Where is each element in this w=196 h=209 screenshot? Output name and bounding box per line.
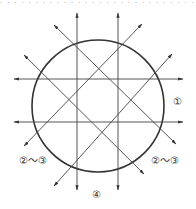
label-bottom-4: ④ bbox=[92, 189, 101, 200]
circle-outline bbox=[32, 40, 164, 172]
label-bottom-left-2-3: ②～③ bbox=[19, 152, 47, 167]
label-bottom-right-2-3: ②～③ bbox=[151, 152, 179, 167]
force-directions-diagram bbox=[0, 0, 196, 209]
label-right-1: ① bbox=[173, 96, 182, 107]
